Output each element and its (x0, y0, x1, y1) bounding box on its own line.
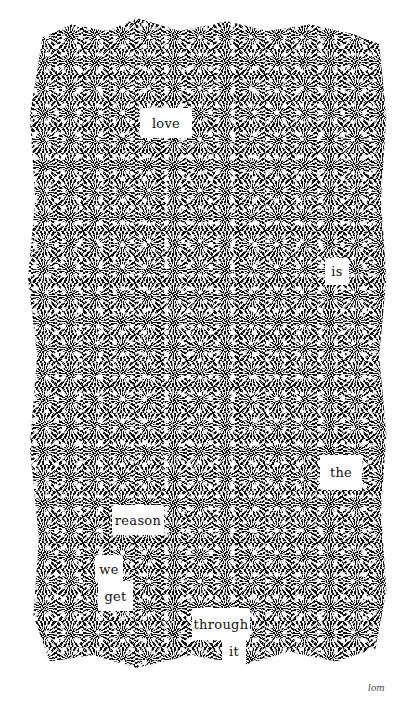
word-through: through (192, 608, 250, 640)
word-love: love (140, 108, 192, 138)
word-get: get (98, 581, 133, 611)
word-reason: reason (112, 505, 164, 535)
floral-ink-illustration (28, 18, 390, 668)
word-the: the (320, 455, 362, 490)
artist-signature: lom (368, 683, 385, 693)
word-it: it (222, 638, 246, 665)
word-we: we (95, 555, 123, 583)
word-is: is (325, 258, 349, 285)
artwork-canvas: love is the reason we get through it lom (0, 0, 415, 703)
